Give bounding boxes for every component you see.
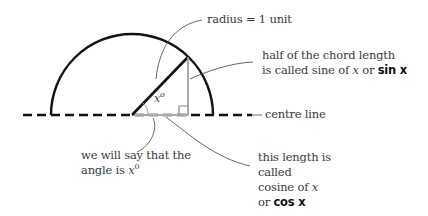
- cos-term: cos x: [273, 195, 305, 209]
- radius-label: radius = 1 unit: [207, 12, 292, 27]
- radius-text: radius = 1 unit: [207, 12, 292, 26]
- angle-prefix: angle is: [81, 163, 128, 177]
- cos-var: x: [312, 180, 318, 194]
- centre-line-label: centre line: [265, 107, 326, 122]
- sine-line-1: half of the chord length: [262, 48, 407, 63]
- cos-or: or: [258, 195, 273, 209]
- cos-line-1: this length is: [258, 150, 331, 165]
- angle-marker-label: xo: [154, 91, 165, 106]
- cos-line-2: called: [258, 165, 331, 180]
- angle-sup: 0: [135, 162, 140, 171]
- cos-line-3: cosine of x: [258, 180, 331, 195]
- cosine-label: this length is called cosine of x or cos…: [258, 150, 331, 210]
- sine-or: or: [359, 63, 378, 77]
- angle-label: we will say that the angle is x0: [81, 148, 191, 178]
- angle-line-2: angle is x0: [81, 163, 191, 178]
- sine-prefix: is called sine of: [262, 63, 352, 77]
- angle-leader: [137, 118, 155, 152]
- sine-line-2: is called sine of x or sin x: [262, 63, 407, 78]
- angle-marker-sup: o: [160, 90, 165, 99]
- unit-circle-diagram: [0, 0, 428, 216]
- sine-term: sin x: [378, 63, 407, 77]
- angle-line-1: we will say that the: [81, 148, 191, 163]
- right-angle-marker: [179, 106, 188, 115]
- centre-line-text: centre line: [265, 107, 326, 121]
- cos-prefix: cosine of: [258, 180, 312, 194]
- angle-arc: [143, 103, 148, 115]
- sine-label: half of the chord length is called sine …: [262, 48, 407, 78]
- cos-line-4: or cos x: [258, 195, 331, 210]
